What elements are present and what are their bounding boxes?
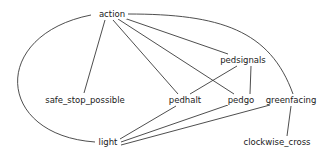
graph-edges [0,0,330,153]
node-pedgo: pedgo [226,95,257,105]
node-greenfacing: greenfacing [264,95,319,105]
edge-action-light [18,15,95,142]
edge-pedhalt-light [120,106,176,139]
edge-pedgo-light [121,105,228,142]
node-safe-stop-possible: safe_stop_possible [43,95,127,105]
node-pedsignals: pedsignals [218,55,268,65]
node-action: action [97,9,127,19]
edge-pedsignals-pedgo [250,66,251,94]
edge-action-pedsignals [121,17,228,54]
node-clockwise-cross: clockwise_cross [241,137,312,147]
edge-action-pedgo [118,19,234,94]
node-light: light [97,137,120,147]
edge-greenfacing-clockwise-cross [287,106,291,136]
node-pedhalt: pedhalt [167,95,203,105]
edge-action-safe-stop-possible [84,20,105,93]
edge-action-pedhalt [113,20,178,94]
